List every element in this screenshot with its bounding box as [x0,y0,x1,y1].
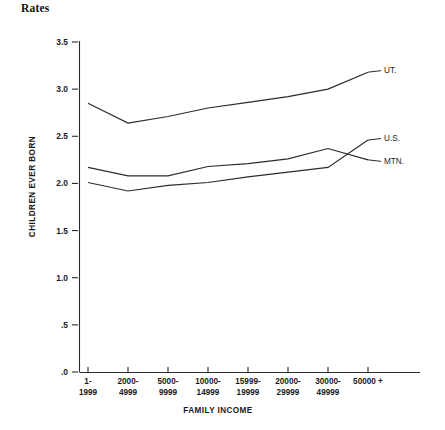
series-label-ut: UT. [384,66,396,75]
data-line-ut [88,72,368,123]
x-axis-tick-marks [88,367,368,372]
leader-line [368,71,381,73]
series-label-us: U.S. [384,134,400,143]
series-leader-lines [368,71,381,162]
data-line-mtn [88,149,368,176]
axes [80,41,421,373]
series-label-mtn: MTN. [384,157,404,166]
leader-line [368,160,381,162]
data-series-group [88,72,368,191]
y-axis-tick-marks [72,42,78,372]
leader-line [368,139,381,141]
chart-figure: Rates CHILDREN EVER BORN FAMILY INCOME 3… [0,0,445,430]
plot-area [0,0,445,430]
